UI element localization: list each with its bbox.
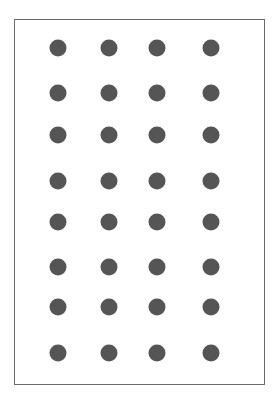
dot [50, 259, 67, 276]
dot [203, 259, 220, 276]
dot [101, 127, 118, 144]
dot [101, 259, 118, 276]
dot [50, 85, 67, 102]
dot [203, 85, 220, 102]
dot [50, 214, 67, 231]
dot [203, 40, 220, 57]
dot [203, 345, 220, 362]
dot [101, 40, 118, 57]
dot [50, 127, 67, 144]
dot [149, 345, 166, 362]
dot [149, 214, 166, 231]
dot [101, 173, 118, 190]
dot [203, 214, 220, 231]
dot [101, 345, 118, 362]
dot [149, 299, 166, 316]
dot [50, 173, 67, 190]
dot [203, 127, 220, 144]
dot [50, 345, 67, 362]
dot [149, 173, 166, 190]
dot [101, 85, 118, 102]
dot [101, 214, 118, 231]
diagram-frame [14, 19, 265, 385]
dot [149, 127, 166, 144]
dot [101, 299, 118, 316]
dot [50, 299, 67, 316]
dot [50, 40, 67, 57]
dot [149, 85, 166, 102]
dot [149, 259, 166, 276]
dot [203, 173, 220, 190]
dot [203, 299, 220, 316]
dot [149, 40, 166, 57]
